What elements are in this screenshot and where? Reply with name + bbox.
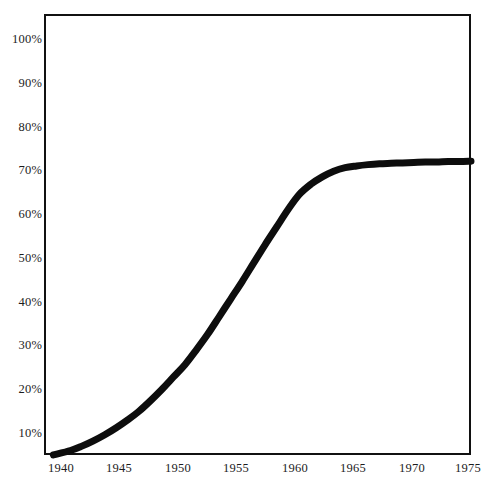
x-axis-tick-label: 1940	[31, 462, 91, 475]
y-axis-tick-label: 60%	[0, 208, 42, 221]
x-axis-tick-label: 1975	[438, 462, 488, 475]
y-axis-tick-label: 20%	[0, 383, 42, 396]
x-axis-tick-label: 1945	[89, 462, 149, 475]
y-axis-tick-label: 10%	[0, 427, 42, 440]
y-axis-tick-label: 100%	[0, 33, 42, 46]
x-axis-tick-label: 1960	[265, 462, 325, 475]
x-axis-tick-label: 1955	[206, 462, 266, 475]
chart-figure: 100% 90% 80% 70% 60% 50% 40% 30% 20% 10%…	[0, 0, 488, 488]
y-axis-tick-label: 30%	[0, 339, 42, 352]
y-axis-tick-label: 80%	[0, 121, 42, 134]
x-axis-tick-label: 1965	[323, 462, 383, 475]
y-axis-tick-label: 40%	[0, 296, 42, 309]
x-axis-tick-label: 1970	[382, 462, 442, 475]
y-axis-tick-label: 50%	[0, 252, 42, 265]
plot-area-frame	[44, 14, 471, 455]
x-axis-tick-label: 1950	[148, 462, 208, 475]
y-axis-tick-label: 90%	[0, 77, 42, 90]
y-axis-tick-label: 70%	[0, 164, 42, 177]
